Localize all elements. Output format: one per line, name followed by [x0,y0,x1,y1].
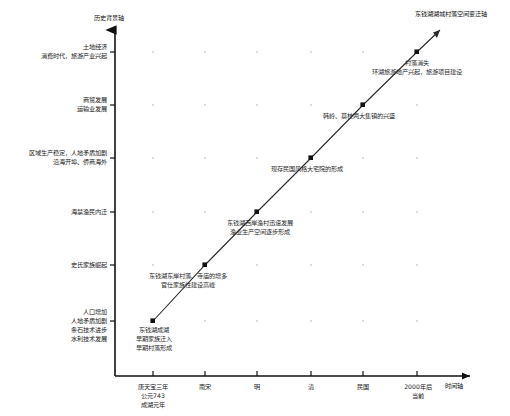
y-tick-label-2: 海禁渔民内迁 [4,207,107,216]
y-tick-label-4: 商贸发展 运输业发展 [4,95,107,113]
x-axis [115,371,470,380]
annotation-point-3: 现存民国风格大宅院的形成 [252,164,362,173]
timeline-chart: 历史背景轴 时间轴 东钱湖湖城村落空间变迁轴 土地经济 消费时代，旅游产业兴起 … [0,0,510,416]
annotation-point-5: 村落消失 环湖旅游地产兴起，旅游项目建设 [330,58,504,76]
y-tick-label-1: 史氏家族崛起 [4,260,107,269]
annotation-point-0: 东钱湖成湖 早期家族迁入 早期村落形成 [118,325,190,352]
annotation-point-2: 东钱湖西岸渔村迅速发展 渔业生产空间逐步形成 [198,218,322,236]
annotation-point-4: 韩岭、莫枝两大集镇的兴盛 [300,111,418,120]
y-axis-title: 历史背景轴 [74,14,144,22]
y-tick-label-0: 人口增加 人地矛盾加剧 条石技术进步 水利技术发展 [4,307,107,343]
x-axis-title: 时间轴 [445,382,501,390]
x-tick-label-3: 清 [283,382,339,391]
chart-title: 东钱湖湖城村落空间变迁轴 [392,10,510,18]
y-axis [110,30,115,376]
y-tick-label-3: 区域生产稳定，人地矛盾加剧 沿海开埠、侨商海外 [0,148,107,166]
x-tick-label-1: 南宋 [175,382,235,391]
annotation-point-1: 东钱湖东岸村落、寺庙的增多 官仕家族性建设高峰 [118,271,258,289]
y-tick-label-5: 土地经济 消费时代，旅游产业兴起 [4,42,107,60]
x-tick-label-4: 民国 [335,382,391,391]
x-tick-label-5: 2000年后 当前 [389,382,447,400]
x-tick-label-2: 明 [229,382,285,391]
